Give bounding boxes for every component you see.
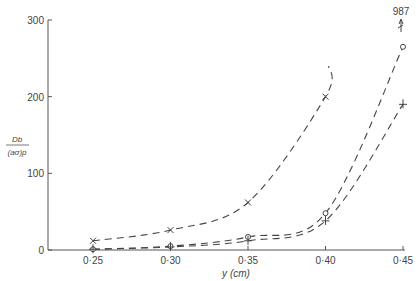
marker-o: [401, 44, 406, 49]
axis-ticks: 01002003000·250·300·350·400·45: [27, 15, 413, 266]
y-tick-label: 0: [38, 245, 44, 256]
marker-plus: [399, 99, 407, 108]
x-tick-label: 0·30: [160, 255, 180, 266]
marker-x: [245, 199, 251, 205]
chart: 01002003000·250·300·350·400·45 y (cm) Db…: [0, 0, 418, 281]
marker-x: [323, 94, 329, 100]
x-tick-label: 0·40: [315, 255, 335, 266]
x-tick-label: 0·45: [393, 255, 413, 266]
series-curve: [93, 66, 332, 241]
x-axis-label: y (cm): [221, 268, 250, 279]
series-curve: [93, 47, 403, 249]
y-axis-label-denominator: (aσ)p: [7, 148, 27, 157]
annotation-text: 987: [393, 6, 410, 17]
marker-plus: [89, 244, 97, 253]
annotation-987: 987: [393, 6, 410, 32]
markers: [89, 44, 407, 253]
axes: [48, 20, 405, 250]
x-tick-label: 0·25: [83, 255, 103, 266]
curves: [93, 47, 403, 249]
y-axis-label-numerator: Db: [12, 135, 23, 144]
y-tick-label: 300: [27, 15, 44, 26]
marker-o: [323, 211, 328, 216]
y-tick-label: 100: [27, 168, 44, 179]
x-tick-label: 0·35: [238, 255, 258, 266]
series-curve: [93, 104, 403, 249]
y-tick-label: 200: [27, 92, 44, 103]
